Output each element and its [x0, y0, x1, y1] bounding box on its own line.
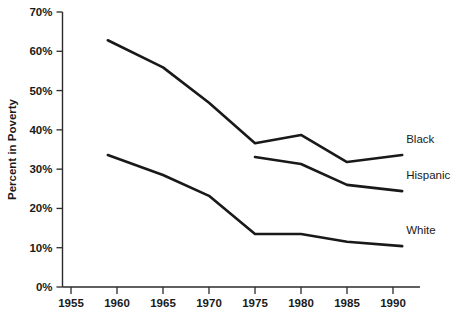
y-tick-label: 50%: [29, 85, 52, 97]
x-tick-label: 1980: [288, 297, 314, 309]
x-axis: 19551960196519701975198019851990: [58, 287, 420, 309]
chart-canvas: 0%10%20%30%40%50%60%70% 1955196019651970…: [0, 0, 451, 319]
series-line-black: [108, 40, 402, 162]
x-tick-label: 1965: [150, 297, 176, 309]
series-label-black: Black: [406, 133, 434, 145]
y-tick-label: 30%: [29, 163, 52, 175]
y-axis: 0%10%20%30%40%50%60%70%: [29, 6, 62, 293]
series-line-white: [108, 155, 402, 246]
x-tick-label: 1970: [196, 297, 222, 309]
y-tick-label: 60%: [29, 45, 52, 57]
series-label-hispanic: Hispanic: [406, 169, 450, 181]
series-label-white: White: [406, 224, 435, 236]
x-tick-label: 1955: [58, 297, 84, 309]
series-lines: [108, 40, 402, 246]
y-axis-title: Percent in Poverty: [6, 98, 18, 200]
x-tick-label: 1990: [380, 297, 406, 309]
series-labels: BlackHispanicWhite: [406, 133, 450, 236]
x-tick-label: 1960: [104, 297, 130, 309]
series-line-hispanic: [255, 157, 402, 191]
x-tick-label: 1985: [334, 297, 360, 309]
y-tick-label: 20%: [29, 202, 52, 214]
poverty-rate-line-chart: 0%10%20%30%40%50%60%70% 1955196019651970…: [0, 0, 451, 319]
y-tick-label: 40%: [29, 124, 52, 136]
y-tick-label: 10%: [29, 242, 52, 254]
y-tick-label: 70%: [29, 6, 52, 18]
y-tick-label: 0%: [36, 281, 53, 293]
x-tick-label: 1975: [242, 297, 268, 309]
